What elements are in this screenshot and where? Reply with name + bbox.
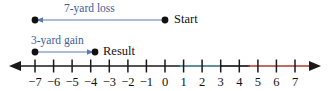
tick-label--5: −5	[65, 76, 78, 89]
loss-arrow-group	[32, 17, 169, 24]
tick-label--7: −7	[28, 76, 41, 89]
tick-label--6: −6	[47, 76, 60, 89]
tick-label-1: 1	[180, 76, 186, 89]
result-dot-icon	[92, 49, 99, 56]
start-dot-icon	[162, 17, 169, 24]
tick-label--4: −4	[84, 76, 97, 89]
start-point-label: Start	[174, 13, 198, 26]
result-point-label: Result	[103, 45, 135, 58]
tick-label--1: −1	[140, 76, 153, 89]
axis-right-arrowhead-icon	[309, 61, 321, 71]
tick-label--2: −2	[121, 76, 134, 89]
tick-label-7: 7	[292, 76, 298, 89]
gain-annotation-label: 3-yard gain	[31, 35, 84, 47]
tick-label-6: 6	[273, 76, 279, 89]
tick-label-0: 0	[162, 76, 168, 89]
axis-group	[9, 60, 321, 73]
tick-label-5: 5	[255, 76, 261, 89]
number-line-figure: 7-yard loss Start 3-yard gain Result −7 …	[0, 0, 330, 91]
loss-endpoint-dot-icon	[32, 17, 39, 24]
gain-origin-dot-icon	[32, 49, 39, 56]
gain-arrow-group	[32, 49, 99, 56]
tick-label-3: 3	[218, 76, 224, 89]
axis-left-arrowhead-icon	[9, 61, 21, 71]
loss-annotation-label: 7-yard loss	[64, 3, 115, 15]
tick-label--3: −3	[103, 76, 116, 89]
tick-label-4: 4	[236, 76, 242, 89]
tick-label-2: 2	[199, 76, 205, 89]
